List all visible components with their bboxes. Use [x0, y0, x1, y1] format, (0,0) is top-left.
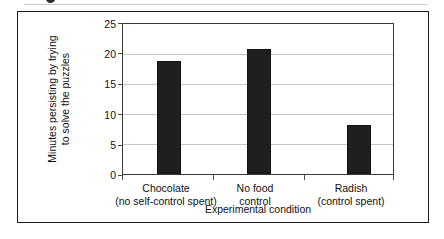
y-tick-label-10: 10 [90, 110, 116, 121]
y-axis-title: Minutes persisting by trying to solve th… [46, 23, 72, 175]
x-category-radish-line1: Radish [335, 182, 368, 194]
x-category-no-food-line1: No food [237, 182, 274, 194]
bar-no-food-control [247, 49, 271, 174]
scan-artifact [0, 0, 444, 9]
x-tick-mark-2 [304, 175, 305, 180]
y-tick-label-20: 20 [90, 49, 116, 60]
x-category-chocolate-line1: Chocolate [142, 182, 189, 194]
figure-frame: Minutes persisting by trying to solve th… [17, 11, 429, 223]
y-tick-label-25: 25 [90, 19, 116, 30]
bar-chart: Minutes persisting by trying to solve th… [18, 12, 430, 224]
y-axis-title-line2: to solve the puzzles [59, 53, 71, 145]
bar-chocolate [157, 61, 181, 174]
x-tick-mark-3 [393, 175, 394, 180]
scan-hairline [24, 4, 428, 5]
y-tick-label-5: 5 [90, 140, 116, 151]
bar-radish [347, 125, 371, 174]
scan-ink-blob [46, 0, 55, 3]
x-tick-mark-1 [213, 175, 214, 180]
y-axis-title-line1: Minutes persisting by trying [46, 35, 58, 162]
y-tick-label-15: 15 [90, 79, 116, 90]
x-tick-mark-0 [122, 175, 123, 180]
y-tick-label-0: 0 [90, 170, 116, 181]
plot-area [122, 23, 394, 175]
x-axis-title: Experimental condition [122, 203, 394, 215]
